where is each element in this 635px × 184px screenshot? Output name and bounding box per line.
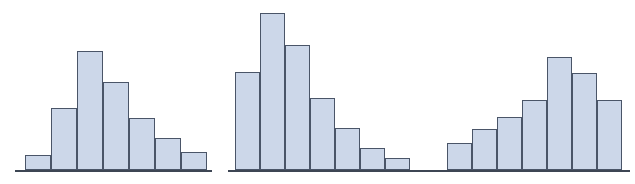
histogram-bar [497,117,522,170]
histogram-bar [547,57,572,170]
histogram-figure [0,0,635,184]
histogram-bar [472,129,497,170]
histogram-bar [522,100,547,170]
histogram-bar [572,73,597,170]
histogram-panel-3 [0,0,635,184]
x-axis-line [421,170,630,172]
histogram-bar [447,143,472,170]
plot-area-3 [0,0,635,184]
histogram-bar [597,100,622,170]
